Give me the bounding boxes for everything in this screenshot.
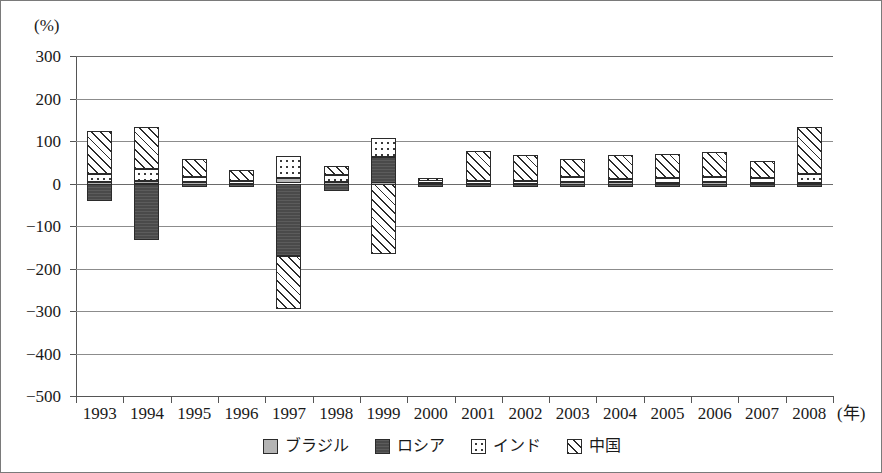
- bar-segment-2004-china[interactable]: [608, 155, 633, 179]
- bar-group-2004[interactable]: [608, 56, 633, 396]
- bar-group-1994[interactable]: [134, 56, 159, 396]
- y-tick-mark-100: [70, 141, 76, 142]
- bar-group-1997[interactable]: [276, 56, 301, 396]
- bar-group-2000[interactable]: [418, 56, 443, 396]
- y-tick-label-100: 100: [36, 133, 62, 150]
- bar-segment-2008-india[interactable]: [797, 174, 822, 183]
- bar-group-2005[interactable]: [655, 56, 680, 396]
- bar-segment-1997-china[interactable]: [276, 256, 301, 309]
- plot-area: [76, 56, 833, 396]
- bar-group-2008[interactable]: [797, 56, 822, 396]
- bar-segment-1994-russia[interactable]: [134, 184, 159, 241]
- bar-segment-1997-russia[interactable]: [276, 184, 301, 256]
- bar-segment-1996-china[interactable]: [229, 170, 254, 181]
- bar-segment-2006-india[interactable]: [702, 177, 727, 182]
- legend-item-russia[interactable]: ロシア: [375, 438, 445, 454]
- bar-segment-1993-china[interactable]: [87, 131, 112, 174]
- bar-segment-2003-russia[interactable]: [560, 184, 585, 187]
- bar-segment-1999-india[interactable]: [371, 138, 396, 157]
- bar-segment-2002-china[interactable]: [513, 155, 538, 181]
- bar-segment-1998-russia[interactable]: [324, 184, 349, 192]
- bar-segment-2000-china[interactable]: [418, 178, 443, 181]
- x-tick-mark-4: [265, 396, 266, 403]
- bar-segment-1995-china[interactable]: [182, 159, 207, 177]
- bar-segment-1993-india[interactable]: [87, 174, 112, 182]
- x-tick-mark-12: [644, 396, 645, 403]
- bar-segment-2001-china[interactable]: [466, 151, 491, 181]
- bar-segment-2005-china[interactable]: [655, 154, 680, 179]
- x-tick-label-1993: 1993: [83, 405, 117, 422]
- bar-segment-2000-russia[interactable]: [418, 184, 443, 187]
- x-tick-mark-7: [407, 396, 408, 403]
- legend-item-china[interactable]: 中国: [567, 438, 621, 454]
- bar-segment-1997-india[interactable]: [276, 156, 301, 178]
- x-tick-label-1998: 1998: [319, 405, 353, 422]
- bar-segment-2005-russia[interactable]: [655, 184, 680, 187]
- bar-group-2006[interactable]: [702, 56, 727, 396]
- bar-segment-1994-india[interactable]: [134, 169, 159, 182]
- bar-segment-1996-russia[interactable]: [229, 184, 254, 187]
- x-axis-unit-label: (年): [837, 405, 865, 422]
- bar-segment-1998-china[interactable]: [324, 166, 349, 175]
- x-tick-mark-16: [833, 396, 834, 403]
- legend-label-brazil: ブラジル: [285, 438, 349, 454]
- bar-group-2007[interactable]: [750, 56, 775, 396]
- y-tick-mark-200: [70, 99, 76, 100]
- legend-label-india: インド: [493, 438, 541, 454]
- legend-label-russia: ロシア: [397, 438, 445, 454]
- x-axis: 1993199419951996199719981999200020012002…: [76, 396, 833, 436]
- bar-group-1996[interactable]: [229, 56, 254, 396]
- bar-segment-2007-india[interactable]: [750, 178, 775, 182]
- bar-group-1999[interactable]: [371, 56, 396, 396]
- bar-segment-2004-india[interactable]: [608, 179, 633, 182]
- bar-segment-2002-russia[interactable]: [513, 184, 538, 187]
- bar-segment-2004-russia[interactable]: [608, 184, 633, 188]
- legend-item-india[interactable]: インド: [471, 438, 541, 454]
- bar-segment-2008-russia[interactable]: [797, 184, 822, 187]
- bar-segment-2006-china[interactable]: [702, 152, 727, 178]
- bar-segment-1999-russia[interactable]: [371, 157, 396, 183]
- x-tick-mark-8: [455, 396, 456, 403]
- bar-segment-2007-russia[interactable]: [750, 184, 775, 187]
- y-tick-mark-0: [70, 184, 76, 185]
- x-tick-label-2002: 2002: [508, 405, 542, 422]
- y-tick-mark--100: [70, 226, 76, 227]
- bar-group-2001[interactable]: [466, 56, 491, 396]
- y-axis-unit-label: (%): [34, 17, 59, 34]
- x-tick-mark-9: [502, 396, 503, 403]
- x-tick-mark-3: [218, 396, 219, 403]
- x-tick-label-2001: 2001: [461, 405, 495, 422]
- bar-segment-2003-india[interactable]: [560, 177, 585, 182]
- bar-segment-2006-russia[interactable]: [702, 184, 727, 187]
- y-tick-label--400: −400: [26, 345, 61, 362]
- chart-legend: ブラジルロシアインド中国: [1, 438, 882, 454]
- legend-swatch-india-icon: [471, 439, 486, 454]
- legend-swatch-china-icon: [567, 439, 582, 454]
- bar-segment-1994-china[interactable]: [134, 127, 159, 169]
- bar-group-1995[interactable]: [182, 56, 207, 396]
- bar-segment-2007-china[interactable]: [750, 161, 775, 178]
- bar-segment-2008-china[interactable]: [797, 127, 822, 174]
- bar-group-2003[interactable]: [560, 56, 585, 396]
- x-tick-mark-13: [691, 396, 692, 403]
- x-tick-label-1999: 1999: [367, 405, 401, 422]
- bar-group-1993[interactable]: [87, 56, 112, 396]
- legend-swatch-brazil-icon: [263, 439, 278, 454]
- x-tick-mark-11: [596, 396, 597, 403]
- bar-segment-1998-india[interactable]: [324, 175, 349, 182]
- x-tick-mark-14: [738, 396, 739, 403]
- bar-segment-2005-india[interactable]: [655, 178, 680, 182]
- bar-segment-2003-china[interactable]: [560, 159, 585, 177]
- bar-segment-1993-russia[interactable]: [87, 184, 112, 201]
- bar-group-1998[interactable]: [324, 56, 349, 396]
- x-tick-label-2007: 2007: [745, 405, 779, 422]
- bar-group-2002[interactable]: [513, 56, 538, 396]
- bar-segment-1995-russia[interactable]: [182, 184, 207, 187]
- x-tick-label-1997: 1997: [272, 405, 306, 422]
- bar-segment-2001-russia[interactable]: [466, 184, 491, 187]
- x-tick-mark-6: [360, 396, 361, 403]
- y-tick-label--200: −200: [26, 260, 61, 277]
- bar-segment-1995-india[interactable]: [182, 177, 207, 182]
- legend-item-brazil[interactable]: ブラジル: [263, 438, 349, 454]
- bar-segment-1999-china[interactable]: [371, 184, 396, 254]
